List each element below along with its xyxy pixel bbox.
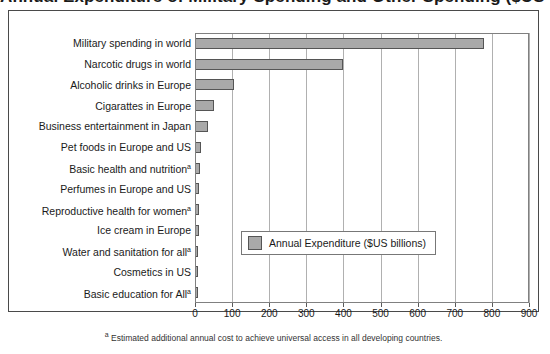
bar (195, 142, 201, 153)
y-axis-label: Perfumes in Europe and US (60, 183, 191, 194)
gridline-900 (529, 33, 530, 303)
footnote-marker: a (187, 204, 191, 211)
footnote-marker: a (187, 246, 191, 253)
y-axis-label: Ice cream in Europe (97, 225, 191, 236)
y-axis-label: Business entertainment in Japan (39, 121, 191, 132)
x-tick-label-700: 700 (446, 308, 463, 319)
x-tick-label-900: 900 (521, 308, 538, 319)
y-axis-label: Military spending in world (73, 38, 191, 49)
bar (195, 79, 234, 90)
x-tickmark-800 (492, 303, 493, 307)
bar-row (195, 266, 529, 278)
y-axis-label: Alcoholic drinks in Europe (70, 79, 191, 90)
y-axis-label: Cigarattes in Europe (95, 100, 191, 111)
y-axis-label: Basic health and nutritiona (69, 161, 191, 176)
y-axis-label-text: Cosmetics in US (113, 265, 191, 277)
bar (195, 183, 199, 194)
bar (195, 121, 208, 132)
chart-frame: Military spending in worldNarcotic drugs… (8, 10, 539, 312)
y-axis-label-text: Perfumes in Europe and US (60, 182, 191, 194)
x-tick-label-500: 500 (372, 308, 389, 319)
bar-row (195, 141, 529, 153)
bar-row (195, 58, 529, 70)
footnote-text: Estimated additional annual cost to achi… (111, 333, 442, 343)
y-axis-label: Water and sanitation for alla (63, 244, 191, 259)
y-axis-label-text: Basic education for All (84, 288, 187, 300)
bar-row (195, 37, 529, 49)
y-axis-category-labels: Military spending in worldNarcotic drugs… (23, 33, 191, 303)
x-tickmark-100 (232, 303, 233, 307)
x-tick-label-300: 300 (298, 308, 315, 319)
chart-title: Annual Expenditure of Military Spending … (0, 0, 550, 7)
bar (195, 266, 198, 277)
x-tickmark-700 (455, 303, 456, 307)
y-axis-label: Basic education for Alla (84, 285, 191, 300)
bar-row (195, 162, 529, 174)
plot-area (195, 33, 529, 303)
bar-row (195, 120, 529, 132)
y-axis-label-text: Ice cream in Europe (97, 224, 191, 236)
x-tickmark-900 (529, 303, 530, 307)
chart-footnote: a Estimated additional annual cost to ac… (9, 331, 538, 343)
y-axis-label-text: Water and sanitation for all (63, 246, 188, 258)
y-axis-label-text: Reproductive health for women (42, 205, 187, 217)
y-axis-label-text: Basic health and nutrition (69, 163, 187, 175)
y-axis-label-text: Military spending in world (73, 37, 191, 49)
x-tickmark-200 (269, 303, 270, 307)
x-tick-label-400: 400 (335, 308, 352, 319)
bar (195, 225, 199, 236)
y-axis-label: Cosmetics in US (113, 266, 191, 277)
bar-row (195, 287, 529, 299)
footnote-marker: a (187, 163, 191, 170)
bar (195, 163, 200, 174)
x-tick-label-800: 800 (484, 308, 501, 319)
bar (195, 287, 198, 298)
y-axis-label: Narcotic drugs in world (84, 59, 191, 70)
chart-figure: Annual Expenditure of Military Spending … (0, 0, 550, 354)
footnote-marker: a (187, 287, 191, 294)
x-tickmark-600 (418, 303, 419, 307)
footnote-marker: a (105, 331, 109, 338)
bar-row (195, 100, 529, 112)
bar (195, 38, 484, 49)
x-tickmark-400 (343, 303, 344, 307)
x-tick-label-600: 600 (409, 308, 426, 319)
y-axis-label-text: Alcoholic drinks in Europe (70, 78, 191, 90)
x-tickmark-0 (195, 303, 196, 307)
x-tick-label-200: 200 (261, 308, 278, 319)
bar-row (195, 204, 529, 216)
chart-legend: Annual Expenditure ($US billions) (241, 231, 436, 255)
bar (195, 204, 199, 215)
x-tick-label-0: 0 (192, 308, 198, 319)
y-axis-label-text: Pet foods in Europe and US (61, 141, 191, 153)
legend-label: Annual Expenditure ($US billions) (269, 237, 426, 249)
y-axis-label-text: Narcotic drugs in world (84, 58, 191, 70)
y-axis-label: Reproductive health for womena (42, 202, 191, 217)
y-axis-label-text: Business entertainment in Japan (39, 120, 191, 132)
bar-row (195, 183, 529, 195)
y-axis-label: Pet foods in Europe and US (61, 142, 191, 153)
bar-row (195, 79, 529, 91)
x-tick-label-100: 100 (224, 308, 241, 319)
bar (195, 246, 198, 257)
bar (195, 59, 343, 70)
x-tickmark-500 (381, 303, 382, 307)
legend-swatch-icon (248, 236, 262, 250)
bar (195, 100, 214, 111)
y-axis-label-text: Cigarattes in Europe (95, 99, 191, 111)
x-tickmark-300 (306, 303, 307, 307)
